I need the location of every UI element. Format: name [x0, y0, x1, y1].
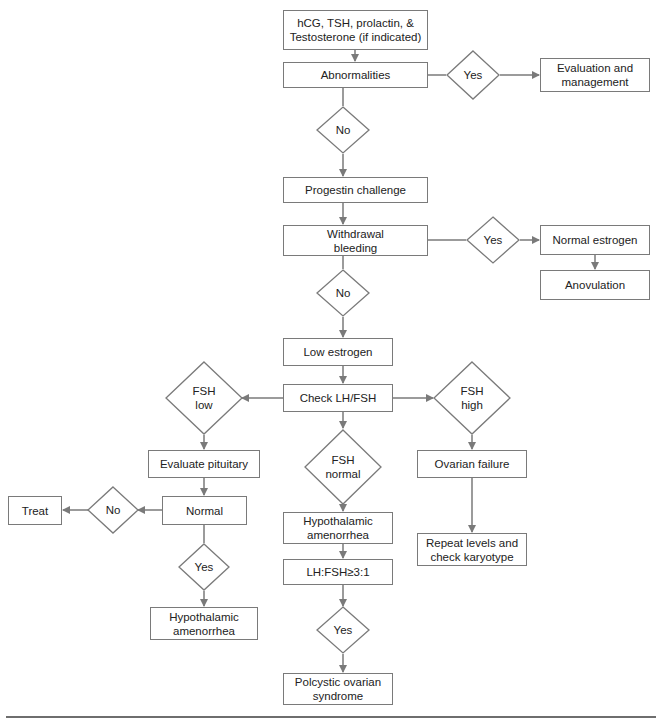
decision-abnormalities-no: No [316, 106, 370, 154]
node-repeat-levels: Repeat levels and check karyotype [417, 533, 527, 566]
node-treat: Treat [8, 496, 62, 525]
node-progestin-challenge: Progestin challenge [283, 177, 428, 203]
decision-withdrawal-yes: Yes [466, 216, 520, 264]
node-label: Polcystic ovarian syndrome [295, 675, 381, 703]
node-check-lh-fsh: Check LH/FSH [283, 384, 393, 412]
decision-label: Yes [195, 560, 214, 574]
decision-label: Yes [334, 623, 353, 637]
node-label: Progestin challenge [305, 183, 406, 197]
decision-label: Yes [464, 68, 483, 82]
decision-label: No [336, 123, 351, 137]
node-label: Normal estrogen [552, 233, 637, 247]
amenorrhea-flowchart: hCG, TSH, prolactin, & Testosterone (if … [0, 0, 661, 723]
node-evaluation-management: Evaluation and management [540, 58, 650, 92]
node-label: Abnormalities [321, 68, 391, 82]
decision-fsh-normal: FSH normal [304, 429, 382, 505]
decision-abnormalities-yes: Yes [446, 50, 500, 100]
decision-fsh-high: FSH high [433, 361, 511, 435]
bottom-divider [6, 716, 656, 718]
node-label: LH:FSH≥3:1 [306, 565, 369, 579]
node-normal: Normal [162, 496, 247, 525]
node-ovarian-failure: Ovarian failure [417, 450, 527, 478]
node-evaluate-pituitary: Evaluate pituitary [148, 450, 260, 478]
node-label: hCG, TSH, prolactin, & Testosterone (if … [290, 16, 422, 44]
decision-ratio-yes: Yes [316, 606, 370, 654]
node-hypothalamic-amenorrhea-center: Hypothalamic amenorrhea [283, 512, 393, 544]
node-abnormalities: Abnormalities [283, 62, 428, 88]
decision-fsh-low: FSH low [165, 361, 243, 435]
node-label: Evaluation and management [557, 61, 633, 89]
node-low-estrogen: Low estrogen [283, 338, 393, 366]
node-label: Normal [186, 504, 223, 518]
node-label: Check LH/FSH [300, 391, 377, 405]
decision-label: No [106, 503, 121, 517]
node-hypothalamic-amenorrhea-left: Hypothalamic amenorrhea [150, 607, 258, 640]
decision-label: FSH normal [325, 453, 360, 481]
node-label: Treat [22, 504, 48, 518]
node-pcos: Polcystic ovarian syndrome [283, 673, 393, 705]
decision-label: FSH high [461, 384, 484, 412]
node-normal-estrogen: Normal estrogen [540, 225, 650, 255]
node-lh-fsh-ratio: LH:FSH≥3:1 [283, 559, 393, 585]
node-label: Withdrawal bleeding [327, 227, 384, 255]
decision-label: No [336, 286, 351, 300]
node-withdrawal-bleeding: Withdrawal bleeding [283, 225, 428, 256]
node-initial-tests: hCG, TSH, prolactin, & Testosterone (if … [283, 10, 428, 50]
decision-label: FSH low [193, 384, 216, 412]
node-label: Evaluate pituitary [160, 457, 248, 471]
node-label: Repeat levels and check karyotype [426, 536, 518, 564]
node-label: Hypothalamic amenorrhea [303, 514, 373, 542]
node-label: Ovarian failure [435, 457, 510, 471]
node-label: Low estrogen [303, 345, 372, 359]
decision-withdrawal-no: No [316, 269, 370, 317]
node-label: Anovulation [565, 278, 625, 292]
node-anovulation: Anovulation [540, 270, 650, 300]
decision-label: Yes [484, 233, 503, 247]
decision-normal-yes: Yes [178, 543, 230, 591]
node-label: Hypothalamic amenorrhea [169, 610, 239, 638]
decision-normal-no: No [87, 486, 139, 534]
